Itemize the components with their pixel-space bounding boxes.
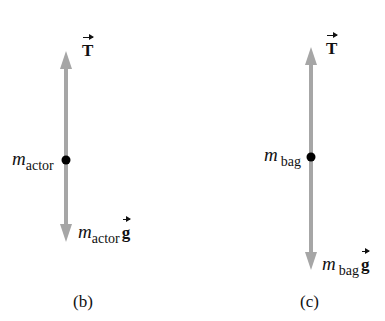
caption-c: (c)	[300, 293, 319, 310]
mass-label-b: mactor	[12, 149, 54, 168]
gravity-vector-symbol: g	[361, 256, 370, 273]
diagram-b	[60, 51, 72, 242]
tension-arrowhead-b	[60, 51, 72, 69]
tension-vector-symbol: T	[82, 42, 93, 59]
tension-vector-symbol: T	[326, 40, 337, 57]
weight-label-b: mactorg	[78, 222, 130, 241]
caption-b: (b)	[73, 293, 93, 310]
mass-point-c	[307, 153, 316, 162]
tension-label-c: T	[326, 40, 337, 57]
mass-point-b	[62, 156, 71, 165]
weight-label-c: mbagg	[322, 254, 369, 273]
gravity-vector-symbol: g	[122, 224, 131, 241]
mass-label-c: mbag	[264, 145, 301, 164]
diagram-c	[305, 47, 317, 270]
tension-arrowhead-c	[305, 47, 317, 65]
tension-label-b: T	[82, 42, 93, 59]
weight-arrowhead-b	[60, 224, 72, 242]
weight-arrowhead-c	[305, 252, 317, 270]
